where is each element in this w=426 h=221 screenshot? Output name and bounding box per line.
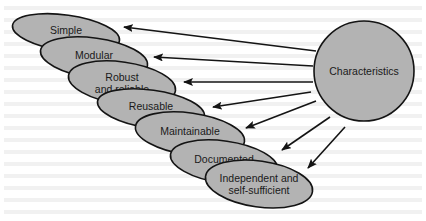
node-label: Reusable (129, 100, 174, 112)
node-label: Maintainable (160, 125, 220, 137)
node-label: self-sufficient (228, 184, 289, 196)
characteristics-diagram: SimpleModularRobustand reliableReusableM… (0, 0, 426, 221)
node-label: Modular (75, 49, 113, 61)
bleed-line (4, 6, 422, 10)
diagram-canvas: SimpleModularRobustand reliableReusableM… (0, 0, 426, 221)
node-label: Independent and (220, 172, 299, 184)
hub-label: Characteristics (329, 65, 398, 77)
arrow-to-documented (282, 117, 330, 150)
node-label: Robust (105, 71, 138, 83)
bleed-line (4, 210, 422, 214)
arrow-to-modular (154, 57, 313, 66)
characteristic-nodes: SimpleModularRobustand reliableReusableM… (10, 8, 316, 215)
bleed-line (4, 198, 422, 202)
hub-node: Characteristics (314, 21, 414, 121)
arrow-to-independent (308, 127, 345, 168)
node-label: Simple (50, 24, 82, 36)
